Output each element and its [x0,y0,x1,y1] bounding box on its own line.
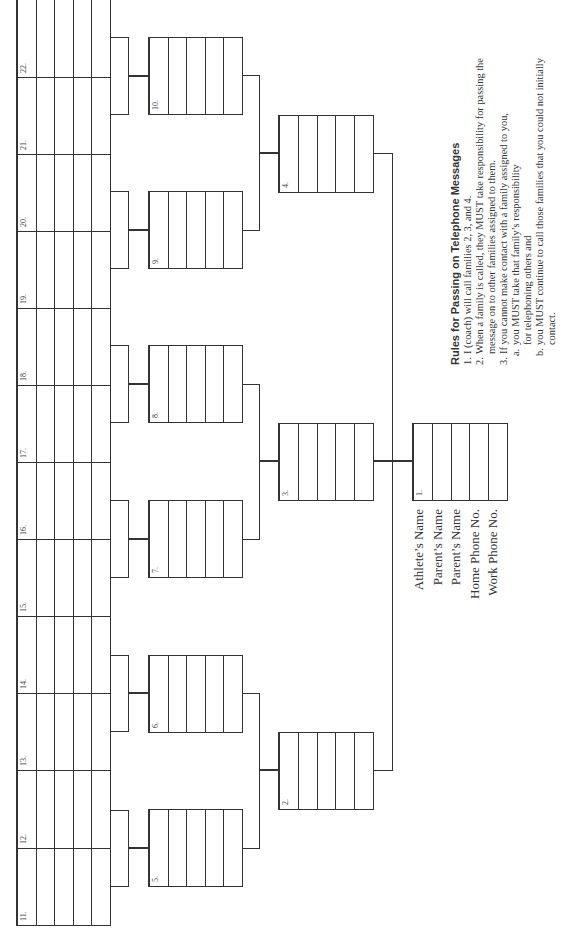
parent-name-field[interactable] [54,616,73,693]
work-phone-field[interactable] [354,733,373,809]
home-phone-field[interactable] [335,733,354,809]
home-phone-field[interactable] [73,849,92,925]
home-phone-field[interactable] [205,38,224,114]
home-phone-field[interactable] [73,308,92,385]
parent-name-field[interactable] [54,462,73,539]
home-phone-field[interactable] [205,346,224,422]
parent-name-field[interactable] [36,385,55,462]
parent-name-field[interactable] [168,501,187,577]
home-phone-field[interactable] [73,77,92,154]
parent-name-field[interactable] [36,849,55,925]
parent-name-field[interactable] [36,231,55,308]
work-phone-field[interactable] [91,849,110,925]
parent-name-field[interactable] [36,616,55,693]
home-phone-field[interactable] [205,656,224,732]
home-phone-field[interactable] [73,539,92,616]
parent-name-field[interactable] [186,501,205,577]
parent-name-field[interactable] [36,539,55,616]
work-phone-field[interactable] [223,501,242,577]
home-phone-field[interactable] [73,616,92,693]
parent-name-field[interactable] [186,346,205,422]
work-phone-field[interactable] [354,424,373,500]
home-phone-field[interactable] [335,116,354,192]
home-phone-field[interactable] [205,192,224,268]
work-phone-field[interactable] [91,231,110,308]
parent-name-field[interactable] [54,385,73,462]
work-phone-field[interactable] [91,154,110,231]
work-phone-field[interactable] [91,693,110,770]
home-phone-field[interactable] [335,424,354,500]
parent-name-field[interactable] [36,308,55,385]
work-phone-field[interactable] [223,656,242,732]
parent-name-field[interactable] [54,154,73,231]
home-phone-field[interactable] [73,231,92,308]
athlete-name-field[interactable] [279,116,298,192]
parent-name-field[interactable] [36,693,55,770]
athlete-name-field[interactable] [149,810,168,886]
parent-name-field[interactable] [36,77,55,154]
home-phone-field[interactable] [73,693,92,770]
parent-name-field[interactable] [168,656,187,732]
parent-name-field[interactable] [186,656,205,732]
work-phone-field[interactable] [91,308,110,385]
work-phone-field[interactable] [91,77,110,154]
home-phone-field[interactable] [73,771,92,848]
parent-name-field[interactable] [186,38,205,114]
work-phone-field[interactable] [354,116,373,192]
athlete-name-field[interactable] [279,733,298,809]
parent-name-field[interactable] [298,116,317,192]
parent-name-field[interactable] [298,424,317,500]
parent-name-field[interactable] [36,0,55,77]
home-phone-field[interactable] [73,385,92,462]
home-phone-field[interactable] [73,154,92,231]
home-phone-field[interactable] [469,424,488,500]
parent-name-field[interactable] [168,346,187,422]
athlete-name-field[interactable] [149,192,168,268]
parent-name-field[interactable] [168,192,187,268]
athlete-name-field[interactable] [149,346,168,422]
parent-name-field[interactable] [317,424,336,500]
work-phone-field[interactable] [91,0,110,77]
parent-name-field[interactable] [36,771,55,848]
parent-name-field[interactable] [168,810,187,886]
work-phone-field[interactable] [488,424,507,500]
parent-name-field[interactable] [186,192,205,268]
parent-name-field[interactable] [36,462,55,539]
parent-name-field[interactable] [54,0,73,77]
card-number: 16. [19,525,28,535]
parent-name-field[interactable] [54,77,73,154]
athlete-name-field[interactable] [149,501,168,577]
work-phone-field[interactable] [91,771,110,848]
parent-name-field[interactable] [168,38,187,114]
parent-name-field[interactable] [36,154,55,231]
work-phone-field[interactable] [223,38,242,114]
work-phone-field[interactable] [223,346,242,422]
work-phone-field[interactable] [91,539,110,616]
athlete-name-field[interactable] [413,424,432,500]
work-phone-field[interactable] [91,462,110,539]
parent-name-field[interactable] [54,231,73,308]
parent-name-field[interactable] [54,849,73,925]
parent-name-field[interactable] [317,116,336,192]
home-phone-field[interactable] [73,0,92,77]
parent-name-field[interactable] [54,539,73,616]
athlete-name-field[interactable] [279,424,298,500]
parent-name-field[interactable] [451,424,470,500]
legend-parent-name: Parent’s Name [447,509,466,621]
parent-name-field[interactable] [186,810,205,886]
parent-name-field[interactable] [298,733,317,809]
parent-name-field[interactable] [54,308,73,385]
card-number: 12. [19,834,28,844]
work-phone-field[interactable] [223,192,242,268]
parent-name-field[interactable] [317,733,336,809]
work-phone-field[interactable] [91,616,110,693]
home-phone-field[interactable] [73,462,92,539]
parent-name-field[interactable] [432,424,451,500]
work-phone-field[interactable] [91,385,110,462]
work-phone-field[interactable] [223,810,242,886]
parent-name-field[interactable] [54,693,73,770]
athlete-name-field[interactable] [149,656,168,732]
home-phone-field[interactable] [205,501,224,577]
home-phone-field[interactable] [205,810,224,886]
parent-name-field[interactable] [54,771,73,848]
